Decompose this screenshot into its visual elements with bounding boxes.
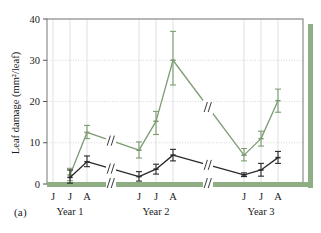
y-axis-title: Leaf damage (mm²/leaf) [10,51,22,154]
year-group-label: Year 1 [56,206,83,217]
x-tick-label: J [68,191,72,202]
y-tick-label: 0 [35,179,40,190]
x-tick-label: J [154,191,158,202]
grid-lines [47,19,303,184]
x-tick-label: J [259,191,263,202]
panel-label: (a) [14,206,27,218]
y-axis-ticks: 010203040 [30,14,48,190]
year-group-label: Year 3 [247,206,274,217]
y-tick-label: 10 [30,137,41,148]
x-tick-label: J [137,191,141,202]
figure-panel: 010203040 JJAJJAJJA Year 1Year 2Year 3 L… [0,0,321,233]
x-tick-label: J [242,191,246,202]
x-axis-ticks: JJAJJAJJA [51,191,282,202]
data-series [67,31,281,183]
y-tick-label: 30 [30,55,41,66]
x-axis-group-labels: Year 1Year 2Year 3 [56,206,274,217]
x-tick-label: A [274,191,282,202]
x-tick-label: A [169,191,177,202]
x-tick-label: J [51,191,55,202]
leaf-damage-line-chart: 010203040 JJAJJAJJA Year 1Year 2Year 3 L… [0,0,321,233]
x-tick-label: A [83,191,91,202]
year-group-label: Year 2 [142,206,169,217]
y-tick-label: 20 [30,96,41,107]
y-tick-label: 40 [30,14,41,25]
